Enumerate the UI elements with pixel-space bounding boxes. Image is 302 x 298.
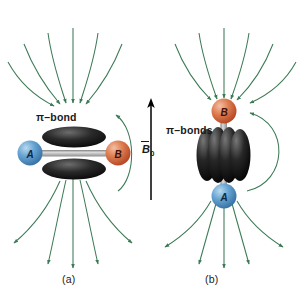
panel-a: A B bbox=[8, 28, 132, 268]
atom-a-label-panel-b: A bbox=[219, 192, 227, 203]
panel-b: B A bbox=[165, 28, 296, 268]
pi-lobe-upper-a bbox=[42, 127, 106, 148]
atom-b-label: B bbox=[114, 149, 121, 160]
pi-lobe-b-4 bbox=[230, 129, 251, 181]
external-field-label: B0 bbox=[142, 143, 155, 158]
field-lines-bottom-b bbox=[165, 200, 283, 268]
atom-a-label: A bbox=[25, 149, 33, 160]
atom-b-label-panel-b: B bbox=[220, 107, 227, 118]
field-return-loop-b bbox=[247, 113, 279, 191]
field-lines-top-a bbox=[8, 28, 122, 106]
pi-lobe-lower-a bbox=[42, 159, 106, 180]
pi-bond-label: π–bond bbox=[36, 111, 77, 123]
caption-panel-a: (a) bbox=[62, 273, 75, 285]
external-field-subscript: 0 bbox=[150, 149, 154, 158]
field-lines-bottom-a bbox=[14, 178, 132, 268]
field-lines-top-b bbox=[175, 28, 296, 103]
pi-bonds-label: π–bonds bbox=[166, 124, 213, 136]
bond-stick-a bbox=[36, 150, 112, 157]
caption-panel-b: (b) bbox=[205, 273, 218, 285]
external-field-symbol: B bbox=[142, 143, 150, 155]
